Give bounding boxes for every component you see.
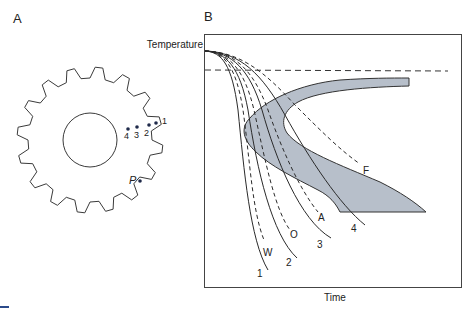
curve-w-label: W <box>263 247 273 258</box>
point-2-dot <box>147 123 151 127</box>
critical-temperature-line <box>205 70 448 71</box>
gear-bore-circle <box>63 113 117 167</box>
point-2-label: 2 <box>144 128 149 138</box>
point-4-label: 4 <box>124 131 129 141</box>
point-p-dot <box>138 179 142 183</box>
curve-2-label: 2 <box>286 257 292 268</box>
x-axis-label: Time <box>324 292 346 303</box>
transformation-band <box>244 78 426 212</box>
curve-3-label: 3 <box>317 239 323 250</box>
point-p-label: P <box>129 174 137 186</box>
point-1-dot <box>154 121 158 125</box>
gear-outline <box>17 67 163 213</box>
point-1-label: 1 <box>162 116 167 126</box>
curve-4-label: 4 <box>351 223 357 234</box>
point-3-label: 3 <box>134 130 139 140</box>
curve-1-label: 1 <box>257 268 263 279</box>
point-3-dot <box>135 125 139 129</box>
curve-a-label: A <box>318 212 325 223</box>
accent-bar <box>0 306 9 308</box>
gear-diagram <box>17 67 163 213</box>
curve-f-label: F <box>363 165 369 176</box>
y-axis-label: Temperature <box>147 39 204 50</box>
figure-canvas: 1 2 3 4 P Temperature Time 1 W 2 O 3 A 4… <box>0 0 471 309</box>
curve-1 <box>205 51 268 270</box>
curve-o-label: O <box>290 229 298 240</box>
